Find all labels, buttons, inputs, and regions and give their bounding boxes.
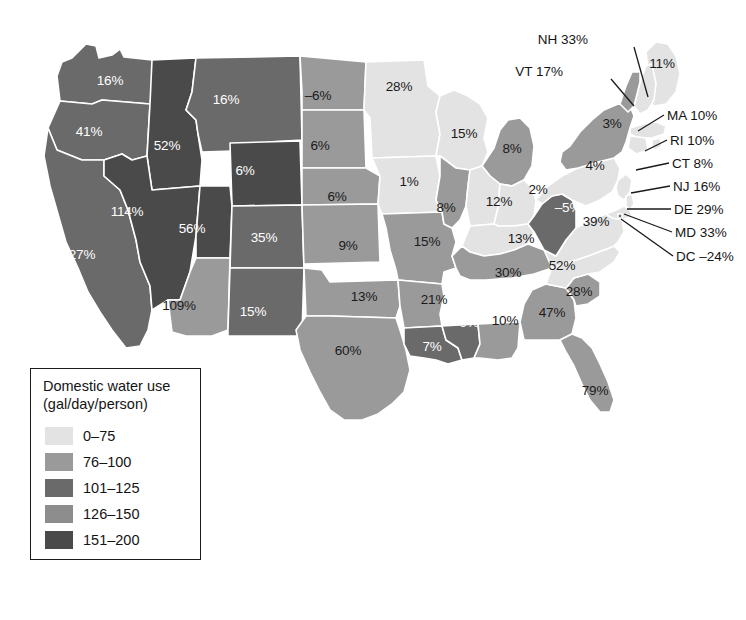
legend-swatch-1 [45,453,73,471]
state-shape-co[interactable] [230,205,304,268]
state-shape-dc[interactable] [618,214,622,218]
legend-label-3: 126–150 [83,503,139,525]
legend-swatch-3 [45,505,73,523]
legend-label-0: 0–75 [83,425,115,447]
state-shape-tx[interactable] [296,316,410,420]
state-shape-or[interactable] [48,100,150,160]
state-shape-oh[interactable] [494,180,536,226]
legend-swatch-4 [45,531,73,549]
legend-label-2: 101–125 [83,477,139,499]
state-shape-ct[interactable] [628,136,648,154]
legend-title-line1: Domestic water use [43,377,170,395]
callout-label-ri: RI 10% [670,133,714,148]
callout-label-ct: CT 8% [672,156,713,171]
callout-label-dc: DC –24% [676,249,734,264]
callout-label-nh: NH 33% [538,32,588,47]
state-shape-ri[interactable] [652,138,662,150]
callout-label-ma: MA 10% [667,108,717,123]
legend-label-1: 76–100 [83,451,131,473]
legend-label-4: 151–200 [83,529,139,551]
state-shape-mt[interactable] [186,56,302,152]
state-shape-ok[interactable] [304,268,400,318]
callout-line-dc [621,219,673,256]
state-shape-fl[interactable] [560,334,614,412]
state-shape-ny[interactable] [560,104,634,170]
callout-label-vt: VT 17% [515,64,563,79]
state-shape-mn[interactable] [364,60,440,158]
map-figure: 16%41%27%52%114%16%6%56%35%109%15%–6%6%6… [0,0,746,620]
state-shape-ar[interactable] [398,280,444,328]
state-shape-wa[interactable] [57,44,156,104]
map-legend: Domestic water use (gal/day/person) 0–75… [30,368,201,560]
callout-line-nj [631,186,670,193]
state-shape-sd[interactable] [302,110,366,168]
legend-title: Domestic water use (gal/day/person) [43,377,170,413]
state-shape-nm[interactable] [228,268,304,336]
state-shape-ut[interactable] [196,186,232,258]
legend-swatch-0 [45,427,73,445]
legend-swatch-2 [45,479,73,497]
state-shape-nd[interactable] [300,56,366,110]
legend-title-line2: (gal/day/person) [43,395,170,413]
callout-line-md [624,214,672,232]
state-shape-ks[interactable] [302,204,380,268]
callout-label-de: DE 29% [674,202,724,217]
state-shape-al[interactable] [474,322,520,360]
callout-label-md: MD 33% [675,225,727,240]
callout-label-nj: NJ 16% [673,179,720,194]
state-shape-wy[interactable] [230,141,302,206]
state-shape-ne[interactable] [302,168,380,205]
state-shape-ga[interactable] [520,284,576,340]
state-shape-ia[interactable] [372,156,442,214]
callout-line-ct [636,163,669,170]
